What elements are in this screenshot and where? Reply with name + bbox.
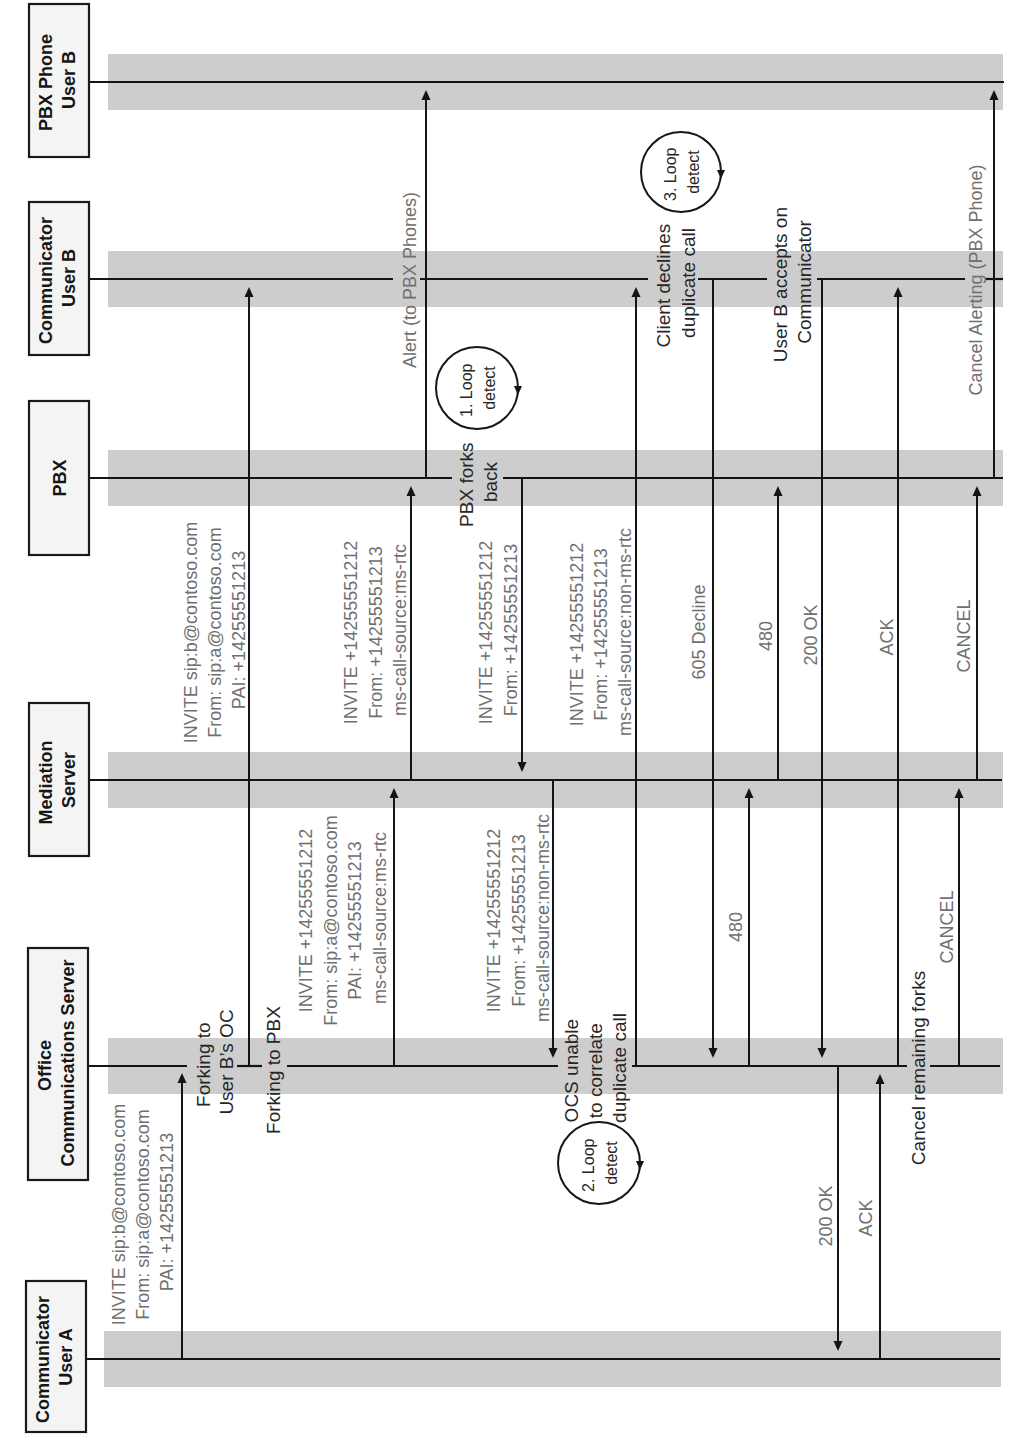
message-label: 200 OK xyxy=(816,1185,836,1246)
participant-label-line: Communicator xyxy=(33,1296,53,1423)
note-ocs-unable-to-correlate: OCS unable to correlate duplicate call xyxy=(561,1013,630,1123)
loop-detect-line: detect xyxy=(603,1141,620,1185)
message-label-line: 200 OK xyxy=(816,1185,836,1246)
message-label: Cancel Alerting (PBX Phone) xyxy=(966,164,986,395)
note-line: User B accepts on xyxy=(770,207,791,362)
message-label-line: From: sip:a@contoso.com xyxy=(205,527,225,737)
message-label-line: ACK xyxy=(877,618,897,655)
note-cancel-remaining-forks: Cancel remaining forks xyxy=(908,971,929,1165)
message-label-line: ms-call-source:non-ms-rtc xyxy=(533,814,553,1022)
message-label-line: From: +14255551213 xyxy=(501,544,521,717)
message-label-line: PAI: +14255551213 xyxy=(229,551,249,709)
loop-circle-icon xyxy=(436,347,518,429)
note-line: duplicate call xyxy=(609,1013,630,1123)
message-label-line: INVITE +14255551212 xyxy=(567,543,587,727)
message-label-line: INVITE +14255551212 xyxy=(476,541,496,725)
note-line: Communicator xyxy=(794,220,815,344)
participant-pbx: PBX xyxy=(29,401,89,555)
note-line: Forking to xyxy=(193,1022,214,1106)
message-label: INVITE +14255551212 From: +14255551213 m… xyxy=(567,528,635,736)
note-line: duplicate call xyxy=(678,228,699,338)
message-label-line: INVITE +14255551212 xyxy=(484,829,504,1013)
loop-circle-icon xyxy=(558,1122,640,1204)
note-line: to correlate xyxy=(585,1023,606,1118)
loop-detect-line: 2. Loop xyxy=(580,1138,597,1191)
message-label-line: From: sip:a@contoso.com xyxy=(133,1109,153,1319)
note-line: PBX forks xyxy=(456,442,477,526)
loop-detect-line: 1. Loop xyxy=(458,363,475,416)
message-label: 480 xyxy=(756,621,776,651)
participant-label-line: Mediation xyxy=(36,741,56,825)
participant-label-line: PBX xyxy=(50,459,70,496)
participant-label-line: User A xyxy=(56,1328,76,1385)
note-line: OCS unable xyxy=(561,1019,582,1123)
note-forking-to-pbx: Forking to PBX xyxy=(263,1006,284,1134)
sequence-diagram: PBX Phone User B Communicator User B PBX… xyxy=(0,0,1014,1434)
message-label-line: PAI: +14255551213 xyxy=(157,1133,177,1291)
loop-detect-line: detect xyxy=(481,366,498,410)
participant-label-line: User B xyxy=(59,51,79,109)
message-label-line: 480 xyxy=(756,621,776,651)
message-label: Alert (to PBX Phones) xyxy=(400,192,420,368)
loop-detect-line: detect xyxy=(685,150,702,194)
participant-communicator-user-a: Communicator User A xyxy=(26,1281,86,1432)
note-line: Cancel remaining forks xyxy=(908,971,929,1165)
message-label-line: 605 Decline xyxy=(689,584,709,679)
message-label-line: 480 xyxy=(726,912,746,942)
note-line: back xyxy=(480,461,501,502)
loop-detect-line: 3. Loop xyxy=(662,147,679,200)
message-label-line: Alert (to PBX Phones) xyxy=(400,192,420,368)
message-label-line: ms-call-source:ms-rtc xyxy=(390,544,410,716)
participant-mediation-server: Mediation Server xyxy=(29,703,89,856)
message-label-line: ms-call-source:ms-rtc xyxy=(370,832,390,1004)
participant-label-line: Communications Server xyxy=(58,959,78,1166)
message-label-line: From: +14255551213 xyxy=(591,548,611,721)
message-label-line: INVITE +14255551212 xyxy=(296,829,316,1013)
note-line: User B’s OC xyxy=(216,1009,237,1114)
message-label-line: INVITE +14255551212 xyxy=(341,541,361,725)
message-label: CANCEL xyxy=(937,890,957,963)
message-label-line: From: +14255551213 xyxy=(509,834,529,1007)
message-label-line: INVITE sip:b@contoso.com xyxy=(181,522,201,743)
participant-label-line: Server xyxy=(59,752,79,808)
message-label-line: ACK xyxy=(856,1199,876,1236)
note-line: Client declines xyxy=(653,224,674,348)
message-label-line: CANCEL xyxy=(937,890,957,963)
message-label-line: From: sip:a@contoso.com xyxy=(321,815,341,1025)
participant-office-communications-server: Office Communications Server xyxy=(28,948,88,1180)
participant-label-line: Office xyxy=(35,1040,55,1091)
message-label-line: PAI: +14255551213 xyxy=(345,841,365,999)
participant-label-line: PBX Phone xyxy=(36,34,56,131)
message-label-line: Cancel Alerting (PBX Phone) xyxy=(966,164,986,395)
message-label-line: CANCEL xyxy=(954,599,974,672)
message-label-line: From: +14255551213 xyxy=(366,546,386,719)
message-label: INVITE +14255551212 From: +14255551213 m… xyxy=(484,814,553,1022)
message-label: 200 OK xyxy=(801,604,821,665)
message-label: CANCEL xyxy=(954,599,974,672)
message-label-line: INVITE sip:b@contoso.com xyxy=(109,1104,129,1325)
participant-communicator-user-b: Communicator User B xyxy=(29,202,89,355)
participant-label: PBX xyxy=(50,459,70,496)
message-label: 480 xyxy=(726,912,746,942)
participant-label-line: Communicator xyxy=(36,217,56,344)
loop-circle-icon xyxy=(641,132,721,212)
message-label-line: ms-call-source:non-ms-rtc xyxy=(615,528,635,736)
note-line: Forking to PBX xyxy=(263,1006,284,1134)
message-label: INVITE +14255551212 From: +14255551213 m… xyxy=(341,536,410,725)
message-label: ACK xyxy=(856,1199,876,1236)
message-label-line: 200 OK xyxy=(801,604,821,665)
message-label: ACK xyxy=(877,618,897,655)
participant-label-line: User B xyxy=(59,249,79,307)
message-label: 605 Decline xyxy=(689,584,709,679)
participant-pbx-phone-user-b: PBX Phone User B xyxy=(29,4,89,157)
